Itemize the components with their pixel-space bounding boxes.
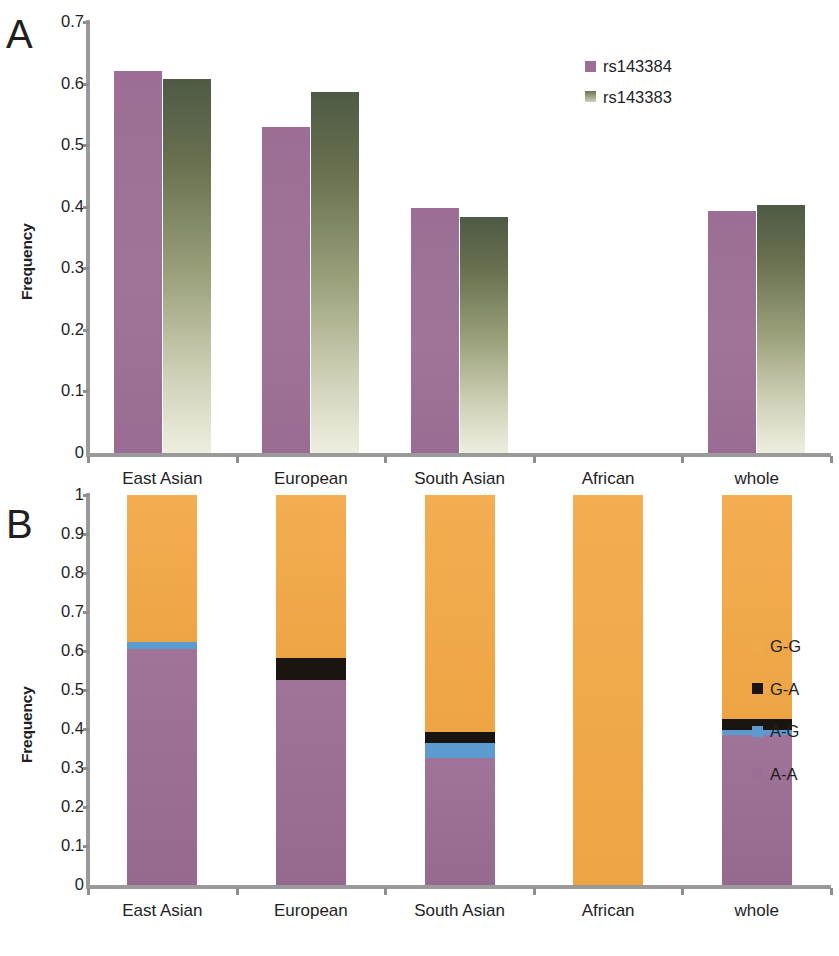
y-tick-label: 0.9 <box>61 525 84 542</box>
y-tick-mark <box>83 21 89 24</box>
bar-rs143383-east-asian <box>163 79 211 453</box>
y-tick-mark <box>83 806 89 809</box>
y-tick-label: 0.2 <box>61 798 84 815</box>
y-tick-label: 0 <box>75 876 84 893</box>
segment-A-A-south-asian <box>425 758 495 885</box>
y-tick-mark <box>83 206 89 209</box>
panel-b-letter: B <box>6 504 33 544</box>
bar-rs143384-whole <box>708 211 756 453</box>
y-tick-label: 0.7 <box>61 603 84 620</box>
bar-rs143384-east-asian <box>114 71 162 453</box>
y-tick-label: 0.1 <box>61 837 84 854</box>
y-tick-label: 0.1 <box>61 382 84 399</box>
y-tick-mark <box>83 494 89 497</box>
legend-item-A-A: A-A <box>752 766 801 783</box>
legend-label: A-G <box>770 723 799 740</box>
y-tick-label: 0.7 <box>61 13 84 30</box>
y-tick-label: 0 <box>75 444 84 461</box>
legend-label: G-A <box>770 681 799 698</box>
y-tick-mark <box>83 767 89 770</box>
y-tick-mark <box>83 728 89 731</box>
bar-rs143383-whole <box>757 205 805 453</box>
segment-G-G-east-asian <box>127 495 197 642</box>
y-tick-label: 0.5 <box>61 681 84 698</box>
legend-label: rs143383 <box>603 89 672 106</box>
panel-a-x-axis-line <box>86 453 831 457</box>
stacked-bar-south-asian <box>425 495 495 885</box>
x-tick-mark <box>384 456 387 463</box>
legend-label: G-G <box>770 638 801 655</box>
y-tick-label: 0.5 <box>61 136 84 153</box>
panel-b-y-axis-title: Frequency <box>18 686 36 763</box>
y-tick-label: 0.3 <box>61 259 84 276</box>
panel-a-letter: A <box>6 14 33 54</box>
y-tick-mark <box>83 572 89 575</box>
x-tick-mark <box>236 456 239 463</box>
bar-rs143384-european <box>262 127 310 453</box>
legend-swatch-icon <box>752 641 763 652</box>
segment-A-G-east-asian <box>127 642 197 649</box>
segment-G-A-european <box>276 658 346 680</box>
y-tick-mark <box>83 650 89 653</box>
legend-swatch-icon <box>752 768 763 779</box>
x-tick-mark <box>830 888 833 895</box>
y-tick-mark <box>83 689 89 692</box>
y-tick-label: 0.6 <box>61 75 84 92</box>
legend-item-rs143383: rs143383 <box>585 89 672 106</box>
segment-G-A-south-asian <box>425 732 495 744</box>
panel-a: A Frequency 00.10.20.30.40.50.60.7 East … <box>0 0 839 500</box>
y-tick-label: 0.8 <box>61 564 84 581</box>
bar-rs143383-european <box>311 92 359 453</box>
legend-swatch-icon <box>752 726 763 737</box>
y-tick-mark <box>83 329 89 332</box>
panel-b-x-axis-line <box>86 885 831 889</box>
x-tick-mark <box>236 888 239 895</box>
segment-A-G-south-asian <box>425 743 495 758</box>
panel-b: B Frequency 00.10.20.30.40.50.60.70.80.9… <box>0 478 839 956</box>
x-tick-mark <box>681 456 684 463</box>
panel-a-legend: rs143384rs143383 <box>585 58 672 119</box>
y-tick-mark <box>83 83 89 86</box>
segment-A-A-european <box>276 680 346 885</box>
legend-swatch-icon <box>585 61 596 72</box>
y-tick-mark <box>83 611 89 614</box>
x-tick-mark <box>533 888 536 895</box>
segment-G-G-european <box>276 495 346 658</box>
y-tick-mark <box>83 267 89 270</box>
y-tick-label: 0.3 <box>61 759 84 776</box>
x-tick-mark <box>87 888 90 895</box>
bar-rs143384-south-asian <box>411 208 459 453</box>
x-tick-mark <box>681 888 684 895</box>
y-tick-mark <box>83 845 89 848</box>
y-tick-label: 0.2 <box>61 321 84 338</box>
y-tick-mark <box>83 533 89 536</box>
x-tick-mark <box>384 888 387 895</box>
x-category-label: East Asian <box>82 902 242 919</box>
bar-rs143383-south-asian <box>460 217 508 453</box>
x-category-label: African <box>528 902 688 919</box>
y-tick-label: 0.4 <box>61 198 84 215</box>
stacked-bar-european <box>276 495 346 885</box>
figure: A Frequency 00.10.20.30.40.50.60.7 East … <box>0 0 839 956</box>
x-tick-mark <box>533 456 536 463</box>
y-tick-mark <box>83 144 89 147</box>
legend-label: A-A <box>770 766 798 783</box>
legend-swatch-icon <box>585 91 596 102</box>
legend-item-rs143384: rs143384 <box>585 58 672 75</box>
stacked-bar-african <box>573 495 643 885</box>
segment-G-G-south-asian <box>425 495 495 732</box>
x-category-label: South Asian <box>380 902 540 919</box>
panel-a-y-axis-title: Frequency <box>18 223 36 300</box>
legend-item-G-G: G-G <box>752 638 801 655</box>
legend-swatch-icon <box>752 683 763 694</box>
y-tick-label: 0.4 <box>61 720 84 737</box>
segment-G-G-african <box>573 495 643 885</box>
legend-item-G-A: G-A <box>752 681 801 698</box>
panel-b-legend: G-GG-AA-GA-A <box>752 638 801 808</box>
y-tick-mark <box>83 390 89 393</box>
x-tick-mark <box>87 456 90 463</box>
segment-A-A-east-asian <box>127 649 197 885</box>
legend-item-A-G: A-G <box>752 723 801 740</box>
stacked-bar-east-asian <box>127 495 197 885</box>
x-tick-mark <box>830 456 833 463</box>
